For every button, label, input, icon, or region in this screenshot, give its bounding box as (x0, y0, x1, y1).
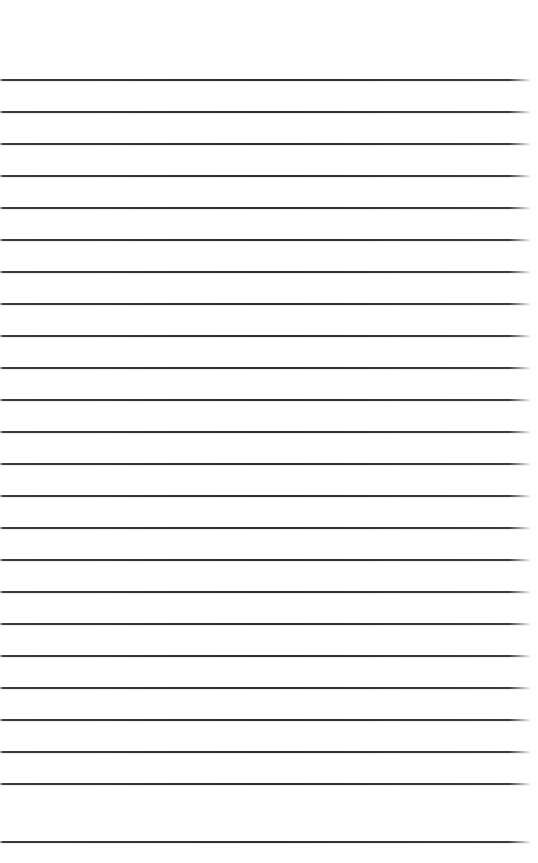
rule-gap (0, 401, 530, 431)
rule-gap (0, 561, 530, 591)
rule-gap (0, 369, 530, 399)
rule-gap (0, 177, 530, 207)
ruled-lines-layer (0, 0, 538, 863)
rule-gap (0, 145, 530, 175)
rule-gap (0, 305, 530, 335)
rule-gap (0, 657, 530, 687)
rule-gap (0, 625, 530, 655)
rule-gap (0, 81, 530, 111)
rule-gap (0, 337, 530, 367)
rule-gap (0, 497, 530, 527)
lined-paper-page (0, 0, 538, 863)
rule-gap (0, 113, 530, 143)
rule-gap (0, 273, 530, 303)
rule-gap (0, 241, 530, 271)
rule-gap (0, 689, 530, 719)
rule-gap (0, 209, 530, 239)
rule-gap (0, 465, 530, 495)
rule-gap (0, 785, 530, 841)
rule-gap (0, 721, 530, 751)
rule-gap (0, 593, 530, 623)
rule-gap (0, 433, 530, 463)
rule-gap (0, 753, 530, 783)
bottom-margin-blank-area (0, 843, 538, 863)
rule-gap (0, 529, 530, 559)
